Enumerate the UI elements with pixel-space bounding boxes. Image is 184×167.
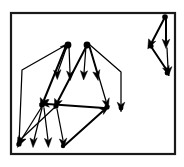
edge-n1-n4 <box>69 46 70 73</box>
graph-node-n13 <box>16 141 21 146</box>
graph-node-n11 <box>104 104 109 109</box>
graph-canvas <box>0 0 184 167</box>
graph-node-n12 <box>119 106 124 111</box>
graph-node-n2 <box>84 42 91 49</box>
graph-node-r2 <box>148 43 153 48</box>
edge-n16-n11 <box>64 111 103 146</box>
graph-node-n16 <box>61 144 65 148</box>
graph-node-n1 <box>65 42 72 49</box>
edge-n9-n15 <box>44 108 48 140</box>
graph-node-n10 <box>53 103 58 108</box>
node-layer <box>16 14 169 148</box>
edge-r3-r4 <box>167 48 168 68</box>
edge-n13-n7-n1 <box>19 45 66 144</box>
edge-r1-r2 <box>152 19 164 42</box>
graph-node-r1 <box>162 14 168 20</box>
edge-n10-n16 <box>57 109 63 140</box>
graph-node-n9 <box>39 102 45 108</box>
edge-layer <box>17 19 172 148</box>
edge-r2-r4 <box>152 48 166 69</box>
graph-node-r4 <box>165 71 170 76</box>
edge-n2-n11 <box>90 47 106 101</box>
figure-root <box>0 0 184 167</box>
